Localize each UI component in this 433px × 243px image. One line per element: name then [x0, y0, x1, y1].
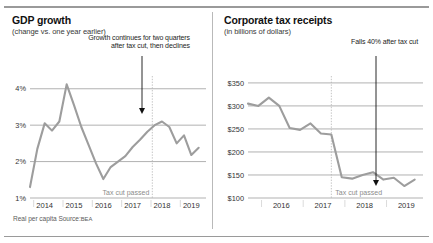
gdp-plot-svg: 4%3%2%1%201420152016201720182019Tax cut … [12, 56, 210, 226]
y-tick-label: 2% [15, 157, 26, 166]
y-tick-label: $300 [228, 102, 244, 111]
tax-plot-svg: $350$300$250$200$150$1002016201720182019… [224, 56, 427, 226]
top-rule [4, 6, 429, 8]
y-tick-label: 3% [15, 121, 26, 130]
tax-chart-subtitle: (in billions of dollars) [224, 27, 427, 37]
y-tick-label: $150 [228, 171, 244, 180]
x-tick-label: 2019 [398, 201, 415, 210]
annotation-arrow-head [139, 108, 145, 114]
tax-cut-marker-label: Tax cut passed [103, 189, 150, 197]
x-tick-label: 2018 [356, 201, 373, 210]
x-tick-label: 2015 [66, 201, 83, 210]
gdp-footnote-source: BEA [81, 216, 92, 222]
tax-chart-title: Corporate tax receipts [224, 14, 427, 26]
gdp-chart-title: GDP growth [12, 14, 210, 26]
y-tick-label: 4% [15, 84, 26, 93]
y-tick-label: $350 [228, 79, 244, 88]
x-tick-label: 2014 [36, 201, 53, 210]
infographic-root: GDP growth (change vs. one year earlier)… [0, 0, 433, 243]
y-tick-label: $200 [228, 148, 244, 157]
bottom-rule [4, 236, 429, 238]
x-tick-label: 2017 [315, 201, 332, 210]
x-tick-label: 2018 [154, 201, 171, 210]
y-tick-label: $100 [228, 194, 244, 203]
x-tick-label: 2016 [273, 201, 290, 210]
tax-plot: $350$300$250$200$150$1002016201720182019… [224, 56, 433, 226]
annotation-arrow-head [373, 180, 379, 186]
gdp-footnote-text: Real per capita Source: [13, 215, 81, 222]
tax-annotation: Falls 40% after tax cut [318, 38, 418, 46]
data-line [30, 84, 199, 187]
y-tick-label: $250 [228, 125, 244, 134]
tax-cut-marker-label: Tax cut passed [335, 189, 382, 197]
gdp-footnote: Real per capita Source:BEA [13, 215, 92, 222]
x-tick-label: 2019 [183, 201, 200, 210]
y-tick-label: 1% [15, 194, 26, 203]
gdp-annotation: Growth continues for two quarters after … [86, 34, 190, 51]
x-tick-label: 2017 [124, 201, 141, 210]
x-tick-label: 2016 [95, 201, 112, 210]
